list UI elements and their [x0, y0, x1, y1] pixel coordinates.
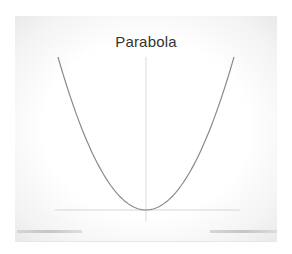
parabola-plot	[0, 0, 292, 254]
